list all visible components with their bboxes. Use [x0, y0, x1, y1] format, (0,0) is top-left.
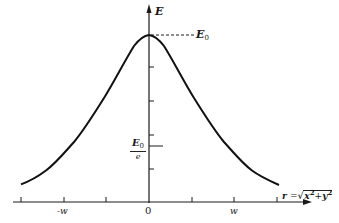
x-axis-label-r: r =√x2+y2	[282, 189, 332, 201]
x-tick-label-w: w	[230, 207, 238, 216]
e0-over-e-denominator: e	[130, 152, 146, 161]
y-ticks	[149, 67, 163, 169]
y-axis-label: E	[155, 6, 163, 17]
y-axis-arrow-icon	[147, 4, 152, 13]
peak-label-e0: E0	[196, 29, 209, 42]
e0-over-e-numerator: E0	[130, 138, 146, 152]
peak-label-sub: 0	[204, 34, 208, 42]
x-tick-label-minus-w: -w	[57, 207, 68, 216]
e0-over-e-label: E0 e	[130, 138, 146, 161]
gaussian-curve	[21, 35, 279, 185]
x-tick-label-zero: 0	[145, 206, 151, 216]
